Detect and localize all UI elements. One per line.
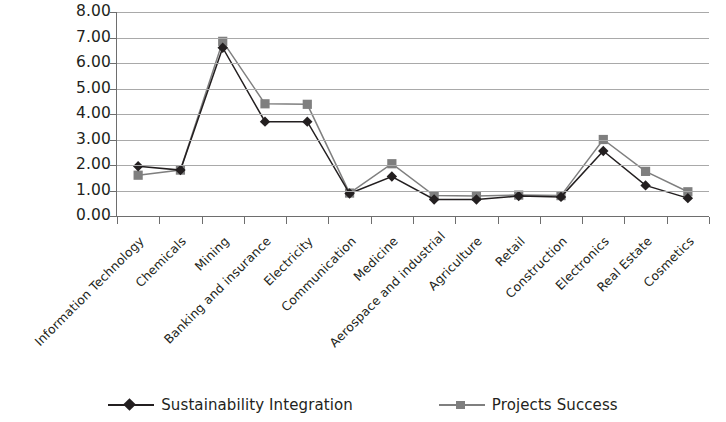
data-point-diamond-marker (260, 116, 270, 126)
y-axis-tick (110, 63, 117, 64)
legend-label: Projects Success (492, 396, 618, 414)
x-axis-tick (244, 217, 245, 224)
x-axis-tick (709, 217, 710, 224)
x-axis-tick (498, 217, 499, 224)
x-axis-tick (286, 217, 287, 224)
data-point-square-marker (260, 99, 269, 108)
gridline (117, 114, 709, 115)
y-axis-tick-label: 4.00 (55, 106, 111, 122)
series-line (138, 41, 688, 196)
x-axis-tick (455, 217, 456, 224)
data-point-diamond-marker (133, 161, 143, 171)
data-point-diamond-marker (302, 116, 312, 126)
y-axis-tick (110, 216, 117, 217)
gridline (117, 165, 709, 166)
diamond-marker-icon (108, 398, 154, 412)
y-axis-tick-label: 3.00 (55, 132, 111, 148)
y-axis-tick-label: 5.00 (55, 81, 111, 97)
y-axis-tick (110, 38, 117, 39)
y-axis-tick-label: 1.00 (55, 183, 111, 199)
gridline (117, 191, 709, 192)
x-axis-category-labels: Information TechnologyChemicalsMiningBan… (0, 226, 726, 376)
chart-legend: Sustainability Integration Projects Succ… (0, 392, 726, 418)
x-axis-tick (117, 217, 118, 224)
y-axis-tick-label: 8.00 (55, 4, 111, 20)
legend-item-projects-success[interactable]: Projects Success (439, 396, 618, 414)
data-point-square-marker (387, 159, 396, 168)
data-point-square-marker (303, 100, 312, 109)
y-axis-tick-label: 7.00 (55, 30, 111, 46)
x-axis-tick (667, 217, 668, 224)
gridline (117, 140, 709, 141)
gridline (117, 89, 709, 90)
y-axis-tick (110, 89, 117, 90)
series-line (138, 48, 688, 200)
data-point-square-marker (134, 171, 143, 180)
x-axis-tick (540, 217, 541, 224)
y-axis-tick-label: 2.00 (55, 157, 111, 173)
y-axis-tick (110, 12, 117, 13)
x-axis-tick (413, 217, 414, 224)
gridline (117, 63, 709, 64)
data-point-square-marker (641, 167, 650, 176)
gridline (117, 38, 709, 39)
square-marker-icon (439, 398, 485, 412)
legend-label: Sustainability Integration (161, 396, 353, 414)
x-axis-tick (328, 217, 329, 224)
plot-area (117, 12, 709, 216)
y-axis-tick (110, 165, 117, 166)
x-axis-tick (371, 217, 372, 224)
y-axis-tick (110, 191, 117, 192)
x-axis-tick (624, 217, 625, 224)
x-axis-tick (202, 217, 203, 224)
y-axis-tick (110, 114, 117, 115)
y-axis-tick-label: 6.00 (55, 55, 111, 71)
data-point-diamond-marker (387, 171, 397, 181)
chart-figure: 8.007.006.005.004.003.002.001.000.00 Inf… (0, 0, 726, 422)
x-axis-tick (582, 217, 583, 224)
y-axis-tick-label: 0.00 (55, 208, 111, 224)
legend-item-sustainability-integration[interactable]: Sustainability Integration (108, 396, 353, 414)
x-axis-tick (159, 217, 160, 224)
y-axis-tick (110, 140, 117, 141)
gridline (117, 12, 709, 13)
